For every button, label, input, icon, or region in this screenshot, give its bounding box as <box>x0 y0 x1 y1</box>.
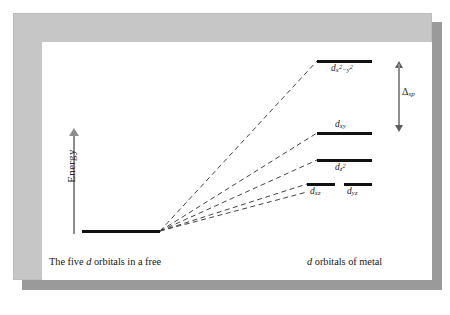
delta-splitting-label: Δsp <box>402 86 415 98</box>
figure-root: Energy dx2−y2 dxy dz2 dxz dyz Δsp The fi… <box>0 0 450 315</box>
level-label-dyz-sub: yz <box>352 189 358 196</box>
level-label-dyz: dyz <box>347 186 358 196</box>
dash-to-dz2 <box>160 160 317 231</box>
energy-axis-label: Energy <box>65 136 77 196</box>
delta-subscript: sp <box>408 90 414 98</box>
caption-square-planar-line1: d orbitals of metal <box>307 255 432 268</box>
delta-arrow-shaft <box>398 64 400 126</box>
level-label-dz2: dz2 <box>335 162 346 172</box>
dash-to-dxy <box>160 133 317 231</box>
level-dxy <box>317 132 372 135</box>
delta-arrow-head-down <box>395 125 403 132</box>
level-label-dx2-y2-sub: x2−y2 <box>336 66 353 73</box>
level-label-dxz: dxz <box>310 186 321 196</box>
caption-free-ion: The five d orbitals in a free transition… <box>49 242 224 280</box>
level-label-dxz-sub: xz <box>315 189 321 196</box>
level-label-dxy-sub: xy <box>340 122 346 129</box>
dash-to-dxz <box>160 184 307 231</box>
figure-gray-frame: Energy dx2−y2 dxy dz2 dxz dyz Δsp The fi… <box>13 13 432 280</box>
dash-to-dx2y2 <box>160 61 317 231</box>
caption-free-ion-line1: The five d orbitals in a free <box>49 255 224 268</box>
dash-to-dyz <box>160 192 307 231</box>
figure-canvas: Energy dx2−y2 dxy dz2 dxz dyz Δsp The fi… <box>42 42 432 280</box>
level-label-dxy: dxy <box>335 119 346 129</box>
level-label-dz2-sub: z2 <box>340 165 346 172</box>
caption-square-planar: d orbitals of metal ion in square planar… <box>307 242 432 280</box>
level-label-dx2-y2: dx2−y2 <box>331 63 353 73</box>
level-free-ion <box>82 230 160 233</box>
